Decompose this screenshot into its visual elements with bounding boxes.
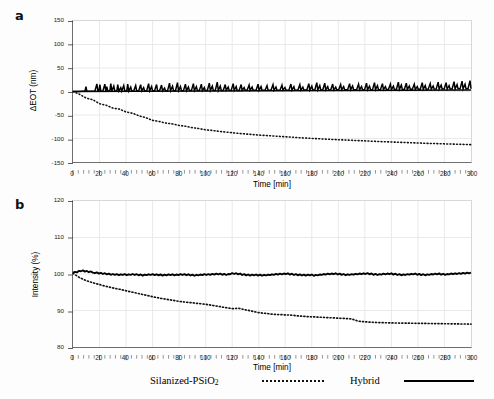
panel-a-ytick-150: 150 <box>40 17 64 23</box>
panel-b-ytick-80: 80 <box>40 344 64 350</box>
panel-a-ytick-m100: -100 <box>40 136 64 142</box>
figure-container: a <box>0 0 494 399</box>
panel-a: a <box>0 0 494 190</box>
panel-b-xaxis-title: Time [min] <box>232 363 312 372</box>
panel-b-xtick-280: 280 <box>435 355 455 361</box>
panel-a-plot-area <box>72 20 472 163</box>
panel-b-xtick-80: 80 <box>169 355 189 361</box>
panel-a-xtick-20: 20 <box>89 171 109 177</box>
panel-a-xtick-120: 120 <box>222 171 242 177</box>
panel-a-xtick-60: 60 <box>142 171 162 177</box>
panel-b-xtick-0: 0 <box>62 355 82 361</box>
panel-b-xtick-260: 260 <box>409 355 429 361</box>
panel-a-xtick-180: 180 <box>302 171 322 177</box>
legend-swatch-silanized-psio2 <box>262 380 324 390</box>
panel-b-ytick-120: 120 <box>40 197 64 203</box>
panel-b-xtick-160: 160 <box>275 355 295 361</box>
panel-a-xtick-220: 220 <box>355 171 375 177</box>
panel-a-xticks <box>73 21 471 170</box>
panel-b-xtick-200: 200 <box>329 355 349 361</box>
panel-a-ytick-100: 100 <box>40 41 64 47</box>
panel-a-ytick-m150: -150 <box>40 160 64 166</box>
panel-a-ytick-0: 0 <box>40 89 64 95</box>
panel-b-plot-area <box>72 200 472 348</box>
panel-b-xtick-240: 240 <box>382 355 402 361</box>
panel-b-xtick-300: 300 <box>462 355 482 361</box>
legend: Silanized-PSiO2 Hybrid <box>150 374 480 390</box>
panel-a-label: a <box>15 9 24 22</box>
panel-b-xtick-140: 140 <box>249 355 269 361</box>
panel-a-xtick-300: 300 <box>462 171 482 177</box>
panel-a-xtick-40: 40 <box>115 171 135 177</box>
panel-b-ytick-90: 90 <box>40 308 64 314</box>
panel-b-xtick-220: 220 <box>355 355 375 361</box>
panel-b-xticks <box>73 201 471 355</box>
panel-b-yaxis-title: Intensity (%) <box>31 235 40 315</box>
panel-b-xtick-100: 100 <box>195 355 215 361</box>
panel-b-xtick-120: 120 <box>222 355 242 361</box>
panel-b-ytick-100: 100 <box>40 271 64 277</box>
legend-label-silanized-psio2: Silanized-PSiO2 <box>150 375 219 389</box>
panel-a-xtick-80: 80 <box>169 171 189 177</box>
legend-label-hybrid: Hybrid <box>350 375 380 387</box>
panel-a-yaxis-title: ΔEOT (nm) <box>29 51 38 131</box>
panel-b: b <box>0 190 494 375</box>
panel-b-xtick-20: 20 <box>89 355 109 361</box>
panel-a-xtick-200: 200 <box>329 171 349 177</box>
panel-b-xtick-60: 60 <box>142 355 162 361</box>
panel-a-ytick-m50: -50 <box>40 112 64 118</box>
panel-a-xtick-140: 140 <box>249 171 269 177</box>
panel-b-ytick-110: 110 <box>40 234 64 240</box>
panel-a-ytick-50: 50 <box>40 65 64 71</box>
panel-a-xtick-260: 260 <box>409 171 429 177</box>
panel-a-xaxis-title: Time [min] <box>232 180 312 189</box>
panel-a-xtick-0: 0 <box>62 171 82 177</box>
panel-b-yticks <box>68 201 73 349</box>
panel-b-xtick-180: 180 <box>302 355 322 361</box>
panel-b-label: b <box>15 198 24 211</box>
panel-a-xtick-240: 240 <box>382 171 402 177</box>
panel-a-xtick-100: 100 <box>195 171 215 177</box>
panel-a-xtick-160: 160 <box>275 171 295 177</box>
panel-a-xtick-280: 280 <box>435 171 455 177</box>
legend-swatch-hybrid <box>404 380 474 390</box>
panel-b-xtick-40: 40 <box>115 355 135 361</box>
panel-a-yticks <box>68 21 73 164</box>
